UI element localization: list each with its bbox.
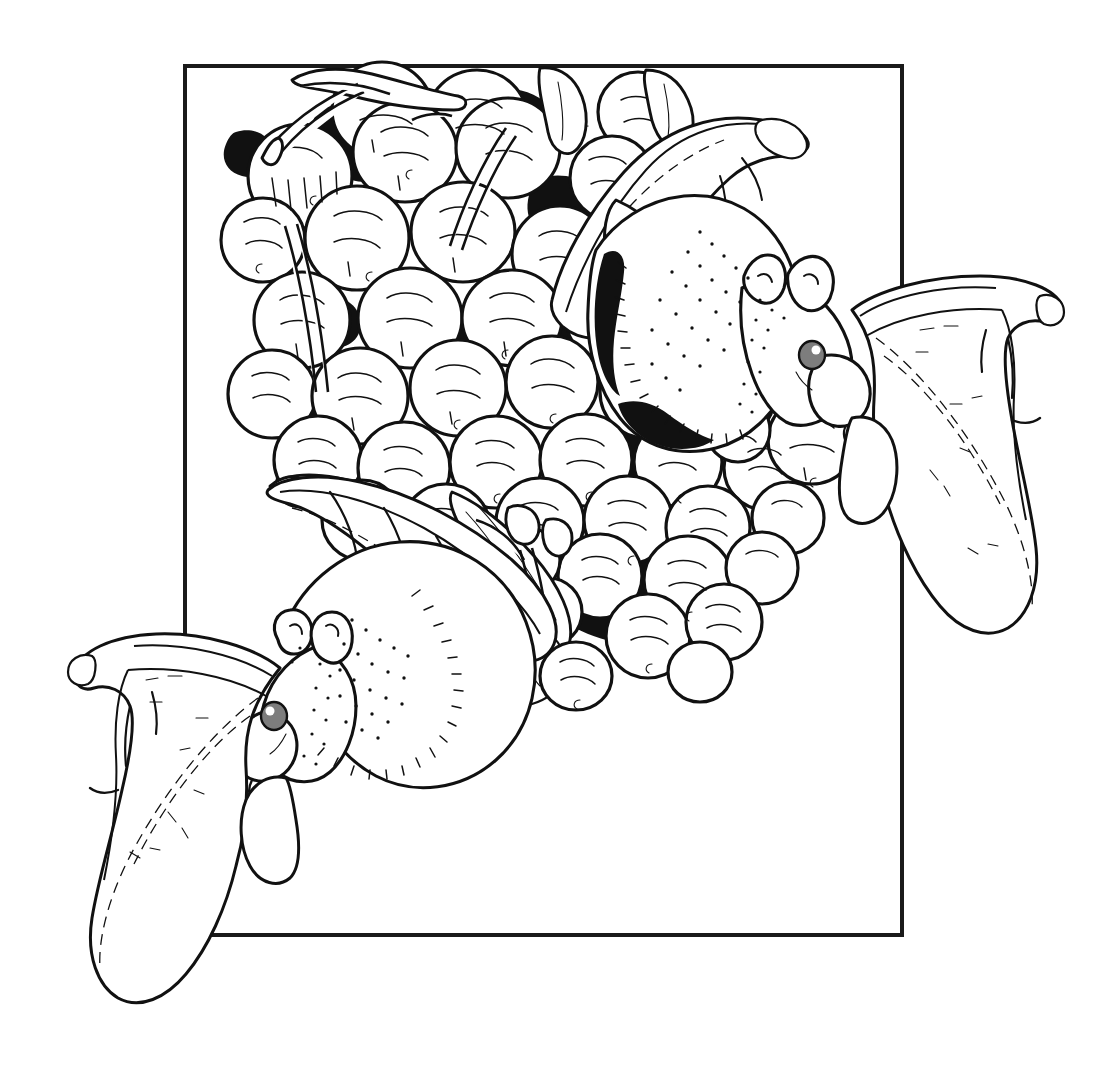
bat-ear-far-lower [274,610,312,654]
fruit-berry [411,182,515,282]
wing-tip-claw-lower [68,655,95,685]
bat-and-fruit-illustration: Two fruit bats feeding on a cluster of f… [0,0,1111,1065]
bat-eye-lower [261,702,287,730]
wing-notch-right [840,417,897,523]
foreground-fruits [540,642,612,710]
leaf-small [543,519,572,556]
bat-ear-near-lower [311,612,352,663]
leaf-small [506,506,539,545]
bat-eye-upper [799,341,825,369]
bat-ear-near [788,256,834,310]
wing-tip-claw-right [1037,295,1064,325]
wing-notch-lower [241,777,298,883]
illustration-root: Two fruit bats feeding on a cluster of f… [0,0,1111,1065]
fruit-berry [668,642,732,702]
